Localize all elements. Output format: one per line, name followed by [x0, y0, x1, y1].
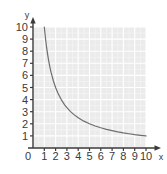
grid-lines	[33, 27, 146, 148]
y-tick-label: 3	[22, 106, 28, 118]
y-axis-tick-labels: 12345678910	[16, 21, 28, 142]
x-tick-label: 9	[132, 150, 138, 162]
y-tick-label: 8	[22, 45, 28, 57]
x-tick-label: 5	[86, 150, 92, 162]
y-tick-label: 5	[22, 82, 28, 94]
x-tick-label: 7	[109, 150, 115, 162]
x-tick-label: 4	[75, 150, 81, 162]
y-axis-label: y	[25, 10, 30, 20]
y-tick-label: 2	[22, 118, 28, 130]
x-tick-label: 2	[53, 150, 59, 162]
y-axis-arrow-icon	[30, 17, 35, 24]
y-tick-label: 7	[22, 57, 28, 69]
x-tick-label: 8	[120, 150, 126, 162]
x-tick-label: 6	[98, 150, 104, 162]
origin-label: 0	[25, 150, 31, 162]
x-tick-label: 3	[64, 150, 70, 162]
y-tick-label: 1	[22, 130, 28, 142]
y-tick-label: 9	[22, 33, 28, 45]
x-tick-label: 1	[41, 150, 47, 162]
x-axis-label: x	[159, 152, 164, 162]
y-tick-label: 4	[22, 94, 28, 106]
y-tick-label: 10	[16, 21, 28, 33]
x-axis-arrow-icon	[155, 145, 162, 150]
chart-container: 12345678910 12345678910 0 y x	[0, 0, 167, 174]
y-tick-label: 6	[22, 69, 28, 81]
x-axis-tick-labels: 12345678910	[41, 150, 152, 162]
hyperbola-chart: 12345678910 12345678910 0 y x	[0, 0, 167, 174]
x-tick-label: 10	[140, 150, 152, 162]
